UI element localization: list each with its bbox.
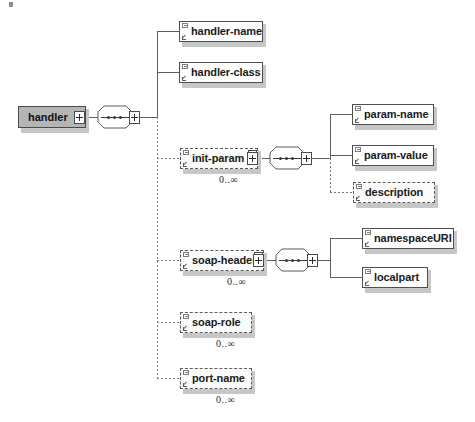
cardinality-soap-header: 0..∞ [227,276,246,287]
element-param-value[interactable]: param-value [352,145,434,166]
cardinality-init-param: 0..∞ [219,174,238,185]
schema-diagram-canvas: handler handler-name [0,0,475,422]
root-element-label: handler [28,112,68,123]
element-port-name[interactable]: port-name [180,368,252,389]
element-label: description [365,187,423,198]
element-label: param-value [364,150,428,161]
sequence-dots-icon [278,157,296,160]
element-handler-class[interactable]: handler-class [179,62,263,83]
element-soap-header[interactable]: soap-header [180,250,264,271]
element-label: port-name [192,373,245,384]
element-handler-name[interactable]: handler-name [179,21,263,42]
element-label: namespaceURI [374,233,452,244]
sequence-init-param-expander[interactable] [301,152,312,165]
element-type-icon [365,269,372,287]
element-type-icon [183,370,190,388]
element-type-icon [355,106,362,124]
element-description[interactable]: description [353,182,435,203]
init-param-expander[interactable] [247,152,258,165]
element-param-name[interactable]: param-name [352,104,434,125]
element-label: init-param [192,153,244,164]
element-label: handler-name [191,26,262,37]
element-localpart[interactable]: localpart [362,267,428,288]
element-label: handler-class [191,67,261,78]
sequence-soap-header-expander[interactable] [307,254,318,267]
element-type-icon [183,150,190,168]
element-label: soap-header [192,255,256,266]
root-expander-toggle[interactable] [74,111,85,124]
cardinality-soap-role: 0..∞ [216,338,235,349]
cardinality-port-name: 0..∞ [216,394,235,405]
element-label: localpart [374,272,419,283]
element-type-icon [356,184,363,202]
soap-header-expander[interactable] [253,254,264,267]
schema-nodes-layer: handler handler-name [0,0,475,422]
element-type-icon [183,252,190,270]
element-namespaceuri[interactable]: namespaceURI [362,228,454,249]
element-type-icon [182,23,189,41]
element-soap-role[interactable]: soap-role [180,312,252,333]
element-label: param-name [364,109,428,120]
element-type-icon [183,314,190,332]
element-type-icon [355,147,362,165]
element-type-icon [182,64,189,82]
element-label: soap-role [192,317,241,328]
sequence-dots-icon [106,116,124,119]
element-type-icon [365,230,372,248]
sequence-dots-icon [284,259,302,262]
sequence-root-expander[interactable] [129,111,140,124]
